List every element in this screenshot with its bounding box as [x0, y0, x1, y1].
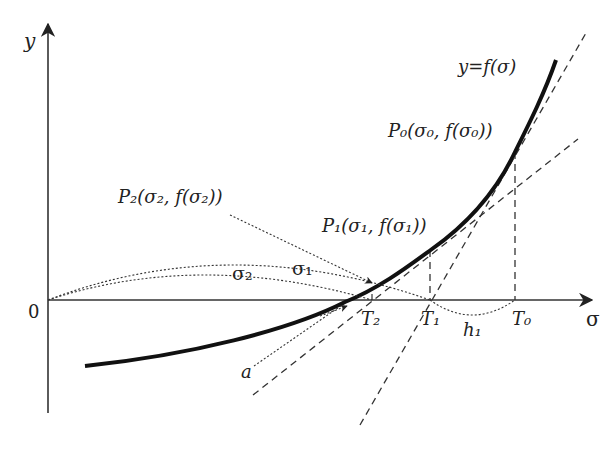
- arc-sigma2: [48, 275, 372, 300]
- point-p1-label: P₁(σ₁, f(σ₁)): [321, 215, 427, 236]
- point-p0-label: P₀(σ₀, f(σ₀)): [387, 120, 493, 141]
- y-axis-label: y: [23, 29, 36, 53]
- dotted-line-a: [254, 303, 345, 366]
- arc-sigma2-label: σ₂: [232, 262, 253, 284]
- mark-t0-label: T₀: [512, 308, 531, 329]
- diagram-svg: y 0 σ y=f(σ) P₀(σ₀, f(σ₀)) P₁(σ₁, f(σ₁))…: [0, 0, 616, 453]
- arc-sigma1-label: σ₁: [292, 257, 313, 279]
- curve-label: y=f(σ): [457, 56, 516, 77]
- mark-t1-label: T₁: [421, 308, 440, 329]
- origin-label: 0: [28, 301, 39, 322]
- newton-method-diagram: y 0 σ y=f(σ) P₀(σ₀, f(σ₀)) P₁(σ₁, f(σ₁))…: [0, 0, 616, 453]
- arc-h1-label: h₁: [463, 319, 482, 340]
- mark-t2-label: T₂: [361, 308, 380, 329]
- sigma-axis-label: σ: [586, 307, 600, 331]
- arc-h1: [430, 300, 515, 315]
- line-a-label: a: [241, 361, 252, 382]
- point-p2-label: P₂(σ₂, f(σ₂)): [117, 186, 223, 207]
